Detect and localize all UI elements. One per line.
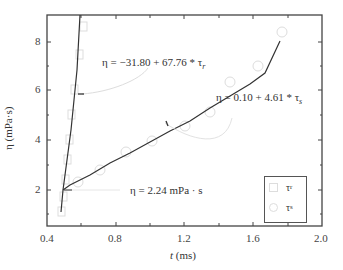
eq-tau-s: η = 0.10 + 4.61 * τs	[216, 92, 302, 106]
leader-tau-r	[82, 68, 148, 94]
series-tau-s-markers	[73, 27, 287, 187]
eq-tau-r: η = −31.80 + 67.76 * τr	[102, 57, 205, 71]
xtick-0.4: 0.4	[40, 233, 54, 244]
xtick-1.2: 1.2	[177, 233, 191, 244]
xtick-1.6: 1.6	[246, 233, 260, 244]
ytick-8: 8	[35, 36, 41, 47]
ytick-2: 2	[35, 184, 41, 195]
ytick-6: 6	[35, 84, 41, 95]
y-axis-label: η (mPa·s)	[2, 107, 14, 150]
legend-item-tau-s: τs	[265, 197, 306, 217]
circle-marker-icon	[269, 203, 278, 212]
xtick-0.8: 0.8	[108, 233, 122, 244]
chart-canvas	[0, 0, 343, 270]
xtick-2.0: 2.0	[314, 233, 328, 244]
legend-item-tau-r: τr	[265, 177, 306, 197]
square-marker-icon	[269, 183, 278, 192]
fit-line-tau-r	[61, 15, 80, 212]
x-axis-label: t (ms)	[170, 250, 196, 261]
ytick-4: 4	[35, 134, 41, 145]
eq-min: η = 2.24 mPa · s	[130, 185, 202, 196]
legend: τr τs	[264, 176, 307, 223]
